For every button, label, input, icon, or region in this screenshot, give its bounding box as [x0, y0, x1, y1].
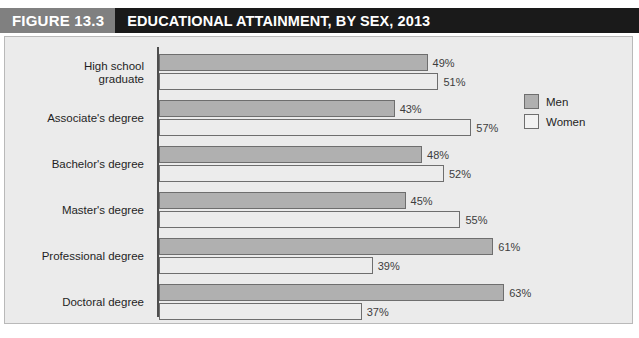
- bar-value-label: 37%: [367, 306, 389, 318]
- bar-row-women: 57%: [159, 119, 498, 136]
- bar-women: [159, 73, 438, 90]
- bar-row-women: 51%: [159, 73, 466, 90]
- category-label-line: Associate's degree: [47, 112, 144, 126]
- bar-pair: 61%39%: [159, 235, 632, 279]
- bar-men: [159, 238, 493, 255]
- bar-group: Master's degree45%55%: [5, 189, 632, 233]
- bar-row-men: 43%: [159, 100, 422, 117]
- bar-value-label: 51%: [443, 76, 465, 88]
- bar-value-label: 63%: [509, 287, 531, 299]
- bar-value-label: 49%: [433, 57, 455, 69]
- bar-value-label: 57%: [476, 122, 498, 134]
- bar-pair: 43%57%: [159, 97, 632, 141]
- figure-title: EDUCATIONAL ATTAINMENT, BY SEX, 2013: [115, 8, 639, 33]
- category-label: Bachelor's degree: [5, 143, 150, 187]
- bar-men: [159, 192, 406, 209]
- bar-value-label: 61%: [498, 241, 520, 253]
- plot-area: MenWomen High schoolgraduate49%51%Associ…: [5, 37, 632, 323]
- bar-value-label: 45%: [411, 195, 433, 207]
- bar-row-men: 49%: [159, 54, 455, 71]
- category-label: Associate's degree: [5, 97, 150, 141]
- bar-row-men: 61%: [159, 238, 520, 255]
- category-label: High schoolgraduate: [5, 51, 150, 95]
- figure-container: FIGURE 13.3 EDUCATIONAL ATTAINMENT, BY S…: [0, 0, 639, 338]
- bar-group: Associate's degree43%57%: [5, 97, 632, 141]
- bar-men: [159, 100, 395, 117]
- category-label-line: Professional degree: [42, 250, 144, 264]
- figure-title-bar: FIGURE 13.3 EDUCATIONAL ATTAINMENT, BY S…: [0, 8, 639, 33]
- bar-group: Doctoral degree63%37%: [5, 281, 632, 325]
- bar-row-men: 48%: [159, 146, 449, 163]
- bar-row-women: 39%: [159, 257, 400, 274]
- bar-group: Bachelor's degree48%52%: [5, 143, 632, 187]
- bar-group: High schoolgraduate49%51%: [5, 51, 632, 95]
- category-label: Doctoral degree: [5, 281, 150, 325]
- bar-women: [159, 119, 471, 136]
- bar-value-label: 43%: [400, 103, 422, 115]
- category-label-line: Bachelor's degree: [52, 158, 144, 172]
- bar-men: [159, 284, 504, 301]
- category-label: Master's degree: [5, 189, 150, 233]
- bar-pair: 45%55%: [159, 189, 632, 233]
- category-label-line: Doctoral degree: [62, 296, 144, 310]
- category-label-line: graduate: [99, 73, 144, 87]
- bar-value-label: 55%: [465, 214, 487, 226]
- bar-row-women: 55%: [159, 211, 487, 228]
- category-label-line: High school: [84, 60, 144, 74]
- bar-men: [159, 146, 422, 163]
- category-label-line: Master's degree: [62, 204, 144, 218]
- bar-group: Professional degree61%39%: [5, 235, 632, 279]
- bar-row-women: 37%: [159, 303, 389, 320]
- bar-value-label: 48%: [427, 149, 449, 161]
- bar-row-men: 45%: [159, 192, 433, 209]
- bar-row-men: 63%: [159, 284, 531, 301]
- chart-panel: MenWomen High schoolgraduate49%51%Associ…: [4, 36, 633, 324]
- bar-women: [159, 257, 373, 274]
- bar-value-label: 39%: [378, 260, 400, 272]
- bar-men: [159, 54, 428, 71]
- bar-women: [159, 165, 444, 182]
- bar-women: [159, 303, 362, 320]
- category-label: Professional degree: [5, 235, 150, 279]
- figure-number: FIGURE 13.3: [0, 8, 115, 33]
- bar-row-women: 52%: [159, 165, 471, 182]
- bar-pair: 49%51%: [159, 51, 632, 95]
- bar-women: [159, 211, 460, 228]
- bar-value-label: 52%: [449, 168, 471, 180]
- bar-pair: 48%52%: [159, 143, 632, 187]
- bar-pair: 63%37%: [159, 281, 632, 325]
